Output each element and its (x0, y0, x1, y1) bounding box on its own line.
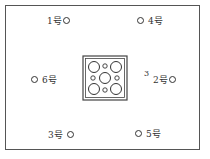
station-6: 6号 (30, 75, 57, 85)
station-4-marker-icon (137, 17, 144, 24)
center-block-outline (83, 56, 127, 100)
station-1: 1号 (47, 16, 71, 26)
annotation-number: 3 (144, 69, 149, 78)
station-1-label: 1号 (47, 16, 62, 26)
station-6-marker-icon (31, 76, 38, 83)
station-4-label: 4号 (148, 16, 163, 26)
station-3-label: 3号 (48, 130, 63, 140)
station-5-marker-icon (135, 130, 142, 137)
station-2: 2号 (153, 75, 177, 85)
station-1-marker-icon (63, 17, 70, 24)
center-hole-block (82, 55, 128, 101)
station-4: 4号 (136, 16, 163, 26)
station-5-label: 5号 (146, 129, 161, 139)
station-2-label: 2号 (153, 75, 168, 85)
station-3: 3号 (48, 130, 75, 140)
station-2-marker-icon (169, 76, 176, 83)
station-3-marker-icon (67, 131, 74, 138)
station-6-label: 6号 (42, 75, 57, 85)
station-5: 5号 (134, 129, 161, 139)
